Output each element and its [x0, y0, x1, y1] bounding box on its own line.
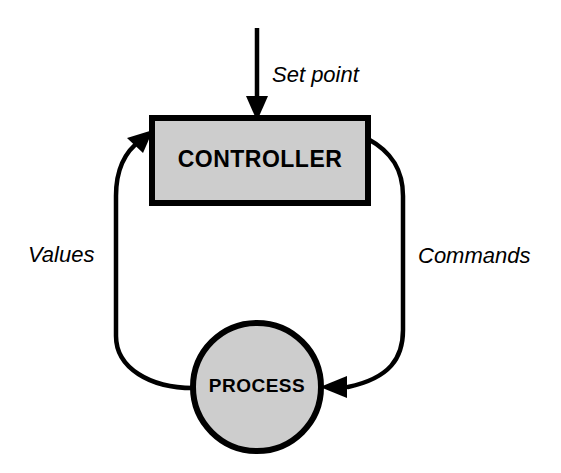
set-point-label: Set point: [272, 62, 359, 88]
values-label: Values: [28, 242, 94, 268]
commands-label: Commands: [418, 243, 530, 269]
commands-arrowhead: [320, 376, 347, 398]
controller-label: CONTROLLER: [152, 146, 368, 172]
set-point-arrow: [246, 28, 268, 121]
process-label: PROCESS: [193, 375, 321, 397]
control-loop-diagram: CONTROLLER PROCESS Set point Values Comm…: [0, 0, 561, 473]
